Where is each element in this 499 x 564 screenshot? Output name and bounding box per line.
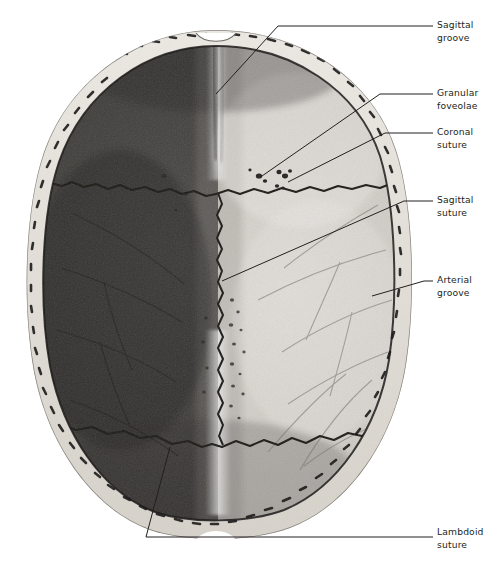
label-text-sagittal-groove-line1: Sagittal bbox=[437, 19, 473, 30]
label-text-lambdoid-suture-line1: Lambdoid bbox=[437, 526, 484, 537]
label-text-granular-foveolae-line2: foveolae bbox=[437, 100, 478, 111]
label-text-sagittal-groove-line2: groove bbox=[437, 32, 470, 43]
label-text-sagittal-suture-line1: Sagittal bbox=[437, 194, 473, 205]
label-text-granular-foveolae-line1: Granular bbox=[437, 87, 478, 98]
label-text-coronal-suture-line2: suture bbox=[437, 139, 467, 150]
label-text-sagittal-suture-line2: suture bbox=[437, 207, 467, 218]
label-text-coronal-suture-line1: Coronal bbox=[437, 126, 473, 137]
label-text-arterial-groove-line2: groove bbox=[437, 287, 470, 298]
label-text-lambdoid-suture-line2: suture bbox=[437, 539, 467, 550]
label-text-arterial-groove-line1: Arterial bbox=[437, 274, 472, 285]
calvaria-figure: SagittalgrooveGranularfoveolaeCoronalsut… bbox=[0, 0, 499, 564]
